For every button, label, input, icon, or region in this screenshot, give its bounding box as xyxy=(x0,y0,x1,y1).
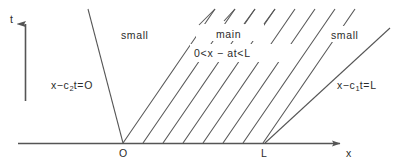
xt-characteristic-diagram: t x O L small main 0<x − at<L small x−c2… xyxy=(0,0,402,164)
right-eq-rhs: L xyxy=(370,79,376,91)
left-characteristic-line xyxy=(88,9,123,143)
characteristic-line-stub xyxy=(244,9,255,24)
condition-expression: x − at xyxy=(208,47,238,59)
left-eq-rhs: O xyxy=(84,79,93,91)
characteristic-line-stub xyxy=(264,9,275,24)
length-tick-label: L xyxy=(261,148,267,159)
region-label-right-small: small xyxy=(331,30,359,41)
right-eq-minus: − xyxy=(343,79,350,91)
origin-tick-label: O xyxy=(119,148,128,159)
main-fan-top-stubs xyxy=(199,9,275,25)
t-axis-label: t xyxy=(10,14,14,25)
region-label-main: main xyxy=(216,29,241,40)
condition-upper-bound: L xyxy=(244,47,250,59)
region-condition-main: 0<x − at<L xyxy=(194,48,251,59)
left-characteristic-label: x−c2t=O xyxy=(51,80,93,93)
x-axis-label: x xyxy=(346,148,352,159)
characteristic-line-stub xyxy=(224,9,235,21)
right-characteristic-label: x−c1t=L xyxy=(337,80,377,93)
left-eq-minus: − xyxy=(57,79,64,91)
region-label-left-small: small xyxy=(121,30,149,41)
condition-less-than-1: < xyxy=(200,47,207,59)
